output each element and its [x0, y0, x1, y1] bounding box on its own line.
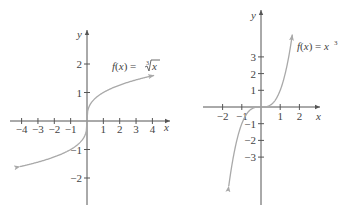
y-axis-label: y — [250, 9, 256, 21]
svg-text:x: x — [151, 60, 157, 72]
y-tick-label: 2 — [77, 58, 83, 70]
svg-text:3: 3 — [146, 60, 149, 66]
x-axis-label: x — [163, 121, 169, 133]
chart-canvas: −4−3−2−11234 21−1−2 x y f(x) = 3 x −2−11… — [0, 0, 341, 213]
x-axis-label: x — [315, 110, 321, 122]
y-tick-label: 1 — [77, 87, 83, 99]
x-tick-label: −2 — [48, 123, 60, 135]
x-tick-label: −2 — [217, 110, 229, 122]
y-axis-label: y — [76, 28, 82, 40]
x-tick-label: −3 — [32, 123, 44, 135]
svg-text:f(x) = x: f(x) = x — [297, 40, 329, 53]
y-tick-label: 1 — [251, 84, 257, 96]
function-label: f(x) = 3 x — [112, 60, 160, 73]
y-tick-label: 3 — [251, 51, 257, 63]
y-tick-label: −1 — [244, 118, 256, 130]
x-tick-label: −1 — [65, 123, 77, 135]
y-tick-label: −3 — [244, 151, 256, 163]
x-tick-label: 3 — [133, 123, 139, 135]
cube-root-graph: −4−3−2−11234 21−1−2 x y f(x) = 3 x — [10, 28, 170, 205]
svg-text:f(x) =: f(x) = — [112, 60, 136, 73]
x-tick-label: 4 — [150, 123, 156, 135]
x-tick-label: 1 — [277, 110, 283, 122]
x-tick-label: 1 — [101, 123, 107, 135]
x-tick-label: −4 — [16, 123, 28, 135]
x-tick-label: 2 — [117, 123, 123, 135]
y-tick-label: 2 — [251, 68, 257, 80]
cube-graph: −2−112 321−1−2−3 x y f(x) = x 3 — [203, 9, 338, 205]
x-tick-label: 2 — [297, 110, 303, 122]
svg-text:3: 3 — [334, 39, 338, 47]
y-tick-label: −2 — [70, 172, 82, 184]
y-tick-label: −2 — [244, 134, 256, 146]
function-label: f(x) = x 3 — [297, 39, 338, 53]
